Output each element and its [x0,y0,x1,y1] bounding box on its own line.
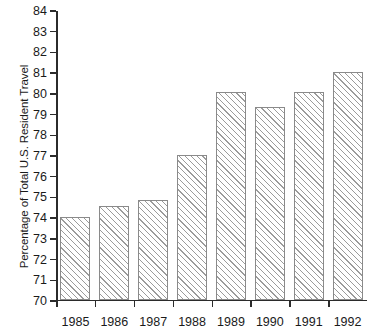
y-tick-mark: 75 [50,197,56,199]
y-tick-mark: 81 [50,72,56,74]
x-tick-label: 1986 [95,316,134,329]
bar [177,155,207,300]
y-tick-label: 75 [33,191,47,204]
bar [333,72,363,300]
x-tick-label: 1990 [250,316,289,329]
y-tick-label: 81 [33,67,47,80]
bar [255,107,285,300]
plot-area: 707172737475767778798081828384 198519861… [56,11,367,301]
y-tick-label: 78 [33,129,47,142]
x-tick-label: 1987 [134,316,173,329]
y-axis-line [56,11,58,301]
bar [138,200,168,299]
y-tick-mark: 84 [50,10,56,12]
x-tick-mark [212,301,214,307]
y-tick-label: 83 [33,25,47,38]
y-tick-label: 79 [33,108,47,121]
y-tick-mark: 79 [50,114,56,116]
y-axis-label: Percentage of Total U.S. Resident Travel [16,0,32,333]
bar [294,92,324,299]
x-tick-label: 1985 [56,316,95,329]
y-tick-mark: 71 [50,280,56,282]
y-tick-mark: 82 [50,52,56,54]
bar [60,217,90,300]
y-tick-label: 73 [33,233,47,246]
x-tick-mark [289,301,291,307]
bar [216,92,246,299]
x-tick-mark [134,301,136,307]
x-tick-label: 1991 [289,316,328,329]
y-tick-mark: 78 [50,135,56,137]
x-tick-label: 1988 [173,316,212,329]
y-tick-label: 74 [33,212,47,225]
bar [99,206,129,299]
x-tick-mark [56,301,58,307]
y-tick-mark: 80 [50,93,56,95]
x-tick-label: 1992 [328,316,367,329]
y-tick-label: 71 [33,274,47,287]
y-tick-mark: 83 [50,31,56,33]
x-tick-mark [250,301,252,307]
y-tick-label: 70 [33,295,47,308]
y-tick-mark: 74 [50,217,56,219]
bar-chart: Percentage of Total U.S. Resident Travel… [0,0,367,333]
y-tick-label: 80 [33,88,47,101]
y-tick-mark: 77 [50,155,56,157]
y-tick-label: 84 [33,5,47,18]
y-tick-mark: 76 [50,176,56,178]
x-tick-mark [328,301,330,307]
x-tick-mark [95,301,97,307]
y-tick-label: 76 [33,170,47,183]
y-tick-label: 77 [33,150,47,163]
y-tick-mark: 72 [50,259,56,261]
y-tick-label: 72 [33,253,47,266]
x-tick-mark [173,301,175,307]
y-tick-mark: 73 [50,238,56,240]
x-tick-label: 1989 [212,316,251,329]
y-tick-label: 82 [33,46,47,59]
